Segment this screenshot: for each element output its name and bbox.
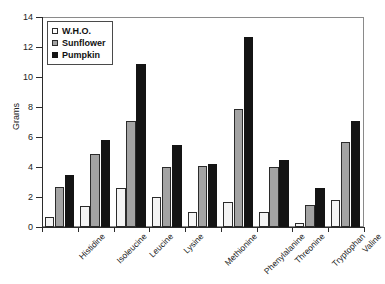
y-axis-tick-label: 2 [0, 193, 33, 202]
x-axis-category-label: Leucine [148, 232, 175, 259]
x-axis-tick [292, 227, 293, 232]
legend-label: W.H.O. [62, 27, 91, 36]
x-axis-tick [185, 227, 186, 232]
bar-group [116, 17, 146, 227]
bar-group [295, 17, 325, 227]
bar [331, 200, 341, 227]
x-axis-category-label: Histidine [77, 232, 106, 261]
bar [65, 175, 75, 228]
bar [208, 164, 218, 227]
y-axis-tick [36, 107, 42, 108]
bar-group [259, 17, 289, 227]
x-axis-tick [114, 227, 115, 232]
bar [80, 206, 90, 227]
y-axis-tick-label: 4 [0, 163, 33, 172]
x-axis-tick [78, 227, 79, 232]
bar [126, 121, 136, 228]
bar [162, 167, 172, 227]
y-axis-tick-label: 10 [0, 73, 33, 82]
x-axis-category-label: Isoleucine [115, 232, 148, 265]
y-axis-tick [36, 167, 42, 168]
y-axis-title: Grams [12, 87, 21, 147]
x-axis-tick [149, 227, 150, 232]
bar [101, 140, 111, 227]
y-axis-tick-label: 12 [0, 43, 33, 52]
bar [269, 167, 279, 227]
bar [244, 37, 254, 228]
x-axis-category-label: Lysine [182, 232, 206, 256]
legend-swatch-icon [52, 40, 58, 46]
x-axis-tick [221, 227, 222, 232]
bar [259, 212, 269, 227]
bar [90, 154, 100, 228]
bar [295, 223, 305, 228]
bar [223, 202, 233, 228]
bar [188, 212, 198, 227]
chart-legend: W.H.O.SunflowerPumpkin [47, 21, 113, 65]
bar-group [188, 17, 218, 227]
y-axis-tick [36, 77, 42, 78]
bar [315, 188, 325, 227]
x-axis-tick [42, 227, 43, 232]
legend-item: W.H.O. [52, 25, 106, 37]
bar-group [223, 17, 253, 227]
bar [116, 188, 126, 227]
y-axis-tick-label: 14 [0, 13, 33, 22]
bar [351, 121, 361, 228]
legend-item: Pumpkin [52, 49, 106, 61]
bar-chart-figure: 02468101214 Grams HistidineIsoleucineLeu… [0, 0, 385, 284]
x-axis-category-label: Methionine [223, 232, 259, 268]
y-axis-tick [36, 47, 42, 48]
bar [305, 205, 315, 228]
bar [45, 217, 55, 228]
x-axis-tick [257, 227, 258, 232]
y-axis-tick-label: 0 [0, 223, 33, 232]
legend-item: Sunflower [52, 37, 106, 49]
y-axis-tick [36, 137, 42, 138]
legend-swatch-icon [52, 28, 58, 34]
bar [279, 160, 289, 228]
bar [136, 64, 146, 228]
x-axis-tick [364, 227, 365, 232]
bar-group [331, 17, 361, 227]
bar [55, 187, 65, 228]
bar-group [152, 17, 182, 227]
legend-swatch-icon [52, 52, 58, 58]
bar [341, 142, 351, 228]
y-axis-tick [36, 197, 42, 198]
bar [234, 109, 244, 228]
bar [198, 166, 208, 228]
y-axis-tick [36, 17, 42, 18]
legend-label: Pumpkin [62, 51, 100, 60]
x-axis-tick [328, 227, 329, 232]
bar [172, 145, 182, 228]
legend-label: Sunflower [62, 39, 106, 48]
x-axis-line [42, 227, 364, 228]
bar [152, 197, 162, 227]
